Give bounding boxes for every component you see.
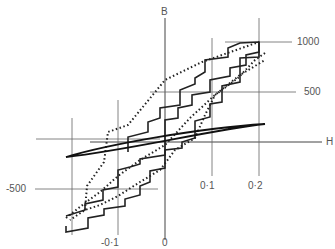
diagram-canvas [0,0,335,249]
x-tick-01: 0·1 [200,180,214,191]
hysteresis-diagram: B H 1000 500 -500 -0·1 0 0·1 0·2 [0,0,335,249]
x-tick-0: 0 [162,237,168,248]
y-tick-neg500: -500 [6,183,26,194]
y-tick-1000: 1000 [297,36,319,47]
x-tick-02: 0·2 [248,180,262,191]
x-tick-neg01: -0·1 [101,237,119,248]
y-tick-500: 500 [304,86,321,97]
y-axis-label: B [161,6,168,17]
x-axis-label: H [326,136,333,147]
